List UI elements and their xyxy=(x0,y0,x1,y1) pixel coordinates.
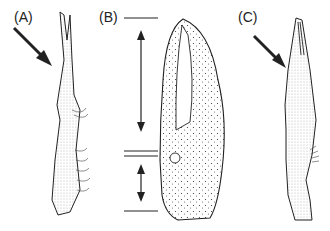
illustration xyxy=(0,0,330,231)
panel-b-drawing xyxy=(124,18,224,220)
panel-c-drawing xyxy=(254,18,319,220)
figure: (A) (B) (C) xyxy=(0,0,330,231)
panel-a-drawing xyxy=(14,12,90,215)
